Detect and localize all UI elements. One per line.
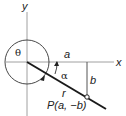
alpha-label: α — [61, 70, 68, 81]
theta-label: θ — [15, 47, 21, 58]
x-axis-label: x — [115, 56, 122, 68]
a-label: a — [64, 48, 70, 60]
y-axis-label: y — [21, 0, 29, 12]
angle-diagram: y x θ a α b r P(a, −b) — [0, 0, 126, 116]
theta-arrow-icon — [40, 75, 45, 81]
point-p-label: P(a, −b) — [47, 99, 87, 111]
b-label: b — [90, 74, 96, 86]
r-label: r — [62, 87, 67, 99]
